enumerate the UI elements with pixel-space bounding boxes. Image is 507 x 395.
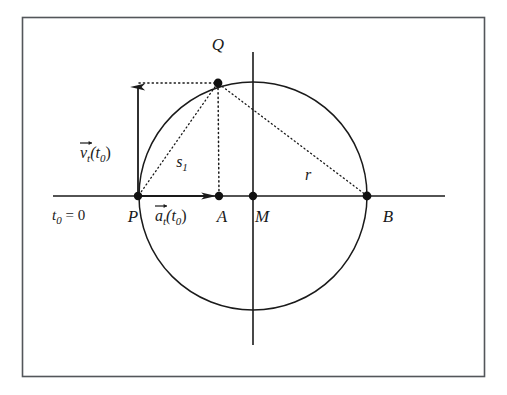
- label-point-A: A: [216, 207, 228, 226]
- label-point-B: B: [383, 207, 394, 226]
- label-velocity-arg-open: (t: [90, 144, 100, 162]
- label-radius-r: r: [305, 166, 312, 183]
- label-chord-s1-sub: 1: [182, 161, 188, 173]
- label-acceleration-vector: at(t0): [155, 204, 187, 227]
- label-point-M: M: [254, 207, 270, 226]
- point-dot-B: [363, 192, 372, 201]
- point-dot-P: [134, 192, 142, 200]
- label-acceleration-arg-close: ): [181, 207, 186, 225]
- point-dot-M: [249, 192, 257, 200]
- label-point-Q: Q: [212, 35, 224, 54]
- label-acceleration-base: a: [155, 207, 163, 224]
- label-velocity-arg-close: ): [105, 144, 110, 162]
- label-acceleration-arg-open: (t: [166, 207, 176, 225]
- point-dot-Q: [214, 79, 223, 88]
- point-dot-A: [215, 192, 223, 200]
- figure-container: Q P A M B r s1 t0 = 0 vt(t0: [0, 0, 507, 395]
- circle-kinematics-diagram: Q P A M B r s1 t0 = 0 vt(t0: [0, 0, 507, 395]
- label-velocity-vector: vt(t0): [80, 141, 111, 164]
- label-point-P: P: [127, 207, 138, 226]
- label-time-t0-eq: = 0: [62, 207, 85, 223]
